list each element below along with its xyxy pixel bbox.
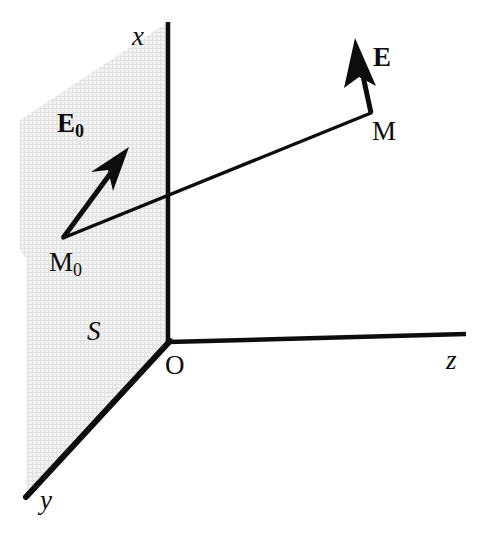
x-axis-label: x: [132, 23, 144, 50]
vector-e0-label-subscript: 0: [75, 121, 84, 141]
y-axis-label: y: [40, 487, 52, 514]
point-m0-label-base: M: [49, 247, 73, 277]
plane-s-label: S: [87, 318, 101, 345]
point-m-label: M: [372, 118, 396, 145]
z-axis-line: [168, 334, 466, 342]
vector-e0-label: E0: [57, 110, 84, 137]
vector-e-arrowhead: [344, 38, 376, 88]
point-m0-label: M0: [49, 249, 82, 276]
vector-e-label: E: [373, 44, 391, 71]
figure-canvas: x y z O S M0 M E0 E: [0, 0, 487, 545]
origin-label: O: [165, 352, 185, 379]
vector-e0-label-base: E: [57, 108, 75, 138]
point-m0-label-subscript: 0: [73, 260, 82, 280]
z-axis-label: z: [446, 347, 457, 374]
